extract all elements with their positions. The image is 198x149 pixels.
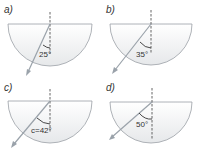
arrow-head-icon	[26, 69, 31, 76]
panel-b: b) 35°	[106, 4, 192, 74]
panel-label: c)	[4, 82, 12, 93]
panel-d: d) 50°	[106, 82, 192, 143]
semicircle-block	[110, 102, 192, 143]
refraction-diagrams: a) 25° b) 35° c) c=42° d) 50°	[0, 0, 198, 149]
angle-label: c=42°	[31, 126, 52, 135]
panel-label: d)	[106, 82, 115, 93]
angle-label: 25°	[39, 50, 51, 59]
angle-label: 50°	[136, 120, 148, 129]
panel-a: a) 25°	[4, 4, 92, 76]
panel-label: b)	[106, 4, 115, 15]
panel-label: a)	[4, 4, 13, 15]
panel-c: c) c=42°	[4, 82, 92, 148]
angle-label: 35°	[136, 50, 148, 59]
